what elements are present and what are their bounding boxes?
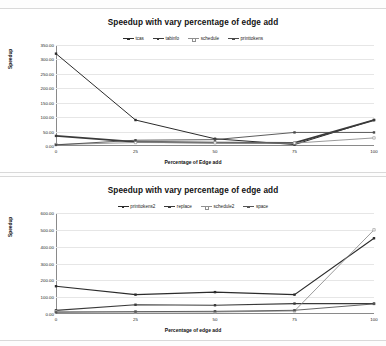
chart-legend-top: tcastabinfoscheduleprinttokens	[0, 36, 386, 41]
legend-item-tcas: tcas	[123, 36, 144, 41]
y-tick-label: 500.00	[41, 227, 54, 232]
series-layer-top	[56, 45, 374, 146]
data-point-marker	[293, 131, 295, 133]
x-tick-label: 100	[370, 149, 377, 154]
legend-swatch-printtokens2-icon	[118, 206, 129, 207]
x-tick-label: 50	[213, 149, 218, 154]
data-point-marker	[293, 309, 295, 311]
legend-item-schedule2: schedule2	[201, 204, 234, 209]
data-point-marker	[373, 303, 375, 305]
data-point-marker	[134, 141, 136, 143]
y-tick-label: 600.00	[41, 211, 54, 216]
y-tick-label: 300.00	[41, 57, 54, 62]
y-tick-label: 350.00	[41, 43, 54, 48]
x-tick-label: 25	[133, 317, 138, 322]
data-point-marker	[55, 311, 57, 313]
legend-swatch-tcas-icon	[123, 38, 134, 39]
data-point-marker	[214, 142, 216, 144]
legend-item-tabinfo: tabinfo	[153, 36, 179, 41]
x-tick-label: 25	[133, 149, 138, 154]
y-tick-label: 200.00	[41, 86, 54, 91]
legend-label: tcas	[135, 36, 143, 41]
legend-label: printtokens2	[130, 204, 155, 209]
y-tick-label: 300.00	[41, 261, 54, 266]
y-tick-label: 250.00	[41, 71, 54, 76]
series-line-tcas	[56, 54, 374, 145]
data-point-marker	[214, 291, 216, 293]
data-point-marker	[214, 304, 216, 306]
legend-item-space: space	[243, 204, 268, 209]
data-point-marker	[134, 304, 136, 306]
data-point-marker	[293, 302, 295, 304]
data-point-marker	[373, 119, 375, 121]
legend-swatch-replace-icon	[164, 206, 175, 207]
y-axis-ticks-bottom: 600.00500.00400.00300.00200.00100.000.00	[18, 213, 54, 314]
legend-swatch-space-icon	[243, 206, 254, 207]
x-tick-label: 75	[292, 317, 297, 322]
data-point-marker	[293, 142, 295, 144]
data-point-marker	[134, 293, 136, 295]
legend-label: schedule	[201, 36, 219, 41]
series-layer-bottom	[56, 213, 374, 314]
y-tick-label: 150.00	[41, 100, 54, 105]
y-tick-label: 200.00	[41, 278, 54, 283]
data-point-marker	[55, 144, 57, 146]
x-axis-title-bottom: Percentage of edge add	[0, 327, 386, 333]
legend-swatch-printtokens-icon	[228, 38, 239, 39]
data-point-marker	[55, 52, 57, 54]
legend-label: printtokens	[241, 36, 263, 41]
legend-swatch-tabinfo-icon	[153, 38, 164, 39]
x-tick-label: 50	[213, 317, 218, 322]
x-tick-label: 75	[292, 149, 297, 154]
chart-title-top: Speedup with vary percentage of edge add	[0, 18, 386, 27]
x-tick-label: 0	[55, 149, 57, 154]
data-point-marker	[293, 293, 295, 295]
x-axis-ticks-bottom: 0255075100	[56, 317, 374, 325]
legend-label: schedule2	[213, 204, 234, 209]
chart-panel-bottom: Speedup with vary percentage of edge add…	[0, 176, 386, 341]
data-point-marker	[373, 229, 375, 231]
y-axis-title-bottom: Speedup	[8, 217, 13, 237]
data-point-marker	[55, 135, 57, 137]
series-line-printtokens2	[56, 238, 374, 294]
chart-panel-top: Speedup with vary percentage of edge add…	[0, 8, 386, 173]
y-tick-label: 400.00	[41, 244, 54, 249]
data-point-marker	[134, 310, 136, 312]
chart-legend-bottom: printtokens2replaceschedule2space	[0, 204, 386, 209]
legend-item-printtokens2: printtokens2	[118, 204, 156, 209]
legend-item-schedule: schedule	[188, 36, 219, 41]
data-point-marker	[214, 138, 216, 140]
data-point-marker	[55, 285, 57, 287]
data-point-marker	[134, 139, 136, 141]
figure-page: Speedup with vary percentage of edge add…	[0, 0, 386, 346]
legend-label: tabinfo	[165, 36, 179, 41]
x-axis-ticks-top: 0255075100	[56, 149, 374, 157]
data-point-marker	[134, 119, 136, 121]
plot-area-bottom	[56, 213, 374, 314]
plot-area-top	[56, 45, 374, 146]
y-tick-label: 50.00	[43, 129, 54, 134]
legend-label: space	[256, 204, 268, 209]
series-line-schedule2	[56, 230, 374, 312]
x-axis-title-top: Percentage of Edge add	[0, 159, 386, 165]
y-tick-label: 100.00	[41, 295, 54, 300]
data-point-marker	[373, 131, 375, 133]
y-tick-label: 0.00	[45, 144, 54, 149]
legend-swatch-schedule2-icon	[201, 206, 212, 207]
chart-title-bottom: Speedup with vary percentage of edge add	[0, 186, 386, 195]
legend-item-printtokens: printtokens	[228, 36, 263, 41]
y-tick-label: 0.00	[45, 312, 54, 317]
data-point-marker	[214, 310, 216, 312]
legend-item-replace: replace	[164, 204, 192, 209]
y-tick-label: 100.00	[41, 115, 54, 120]
x-tick-label: 100	[370, 317, 377, 322]
data-point-marker	[373, 237, 375, 239]
y-axis-title-top: Speedup	[8, 49, 13, 69]
x-tick-label: 0	[55, 317, 57, 322]
legend-label: replace	[177, 204, 192, 209]
y-axis-ticks-top: 350.00300.00250.00200.00150.00100.0050.0…	[18, 45, 54, 146]
data-point-marker	[373, 137, 375, 139]
legend-swatch-schedule-icon	[188, 38, 199, 39]
